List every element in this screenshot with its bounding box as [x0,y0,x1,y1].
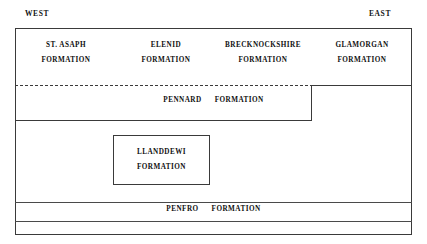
pennard-upper-boundary-dashed [15,85,313,86]
unit-brecknockshire-name: BRECKNOCKSHIRE [212,38,314,53]
unit-pennard-formation: FORMATION [215,96,264,104]
pennard-base-boundary [15,120,312,121]
penfro-base-boundary [15,221,412,222]
unit-glamorgan: GLAMORGAN FORMATION [316,38,408,67]
stratigraphic-chart: WEST EAST ST. ASAPH FORMATION ELENID FOR… [0,0,427,244]
unit-llanddewi-formation: FORMATION [113,160,210,175]
unit-elenid-formation: FORMATION [120,53,212,68]
west-direction-label: WEST [25,9,49,18]
unit-brecknockshire-formation: FORMATION [212,53,314,68]
unit-penfro-name: PENFRO [166,205,198,213]
unit-st-asaph-formation: FORMATION [20,53,112,68]
unit-glamorgan-name: GLAMORGAN [316,38,408,53]
unit-elenid-name: ELENID [120,38,212,53]
unit-llanddewi: LLANDDEWI FORMATION [113,145,210,174]
east-direction-label: EAST [369,9,391,18]
unit-elenid: ELENID FORMATION [120,38,212,67]
unit-penfro: PENFROFORMATION [15,205,412,213]
unit-glamorgan-formation: FORMATION [316,53,408,68]
unit-st-asaph: ST. ASAPH FORMATION [20,38,112,67]
unit-brecknockshire: BRECKNOCKSHIRE FORMATION [212,38,314,67]
penfro-top-boundary [15,202,412,203]
unit-penfro-formation: FORMATION [212,205,261,213]
pennard-upper-boundary-solid-east [311,85,412,86]
unit-llanddewi-name: LLANDDEWI [113,145,210,160]
unit-pennard: PENNARDFORMATION [15,96,412,104]
unit-pennard-name: PENNARD [163,96,201,104]
unit-st-asaph-name: ST. ASAPH [20,38,112,53]
